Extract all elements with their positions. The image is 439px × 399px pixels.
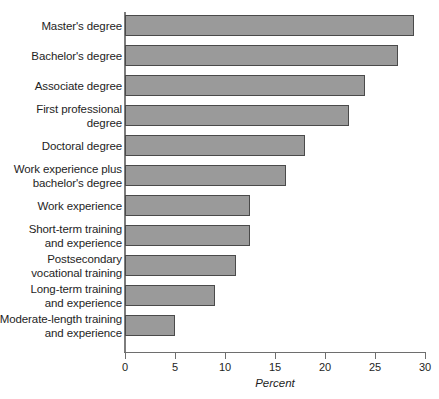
category-label-line: and experience <box>0 327 122 341</box>
category-label-line: Work experience <box>0 200 122 214</box>
category-label: First professionaldegree <box>0 103 122 130</box>
category-label: Postsecondaryvocational training <box>0 253 122 280</box>
bar <box>125 45 398 66</box>
x-tick <box>325 353 326 359</box>
category-label: Work experience <box>0 200 122 214</box>
bar <box>125 195 250 216</box>
bar <box>125 165 286 186</box>
x-tick <box>425 353 426 359</box>
x-axis-title: Percent <box>125 377 425 389</box>
category-label-line: Short-term training <box>0 223 122 237</box>
bar-row: Postsecondaryvocational training <box>0 252 439 282</box>
x-tick <box>275 353 276 359</box>
category-label-line: Long-term training <box>0 283 122 297</box>
category-label: Moderate-length trainingand experience <box>0 313 122 340</box>
bar-row: Work experience plusbachelor's degree <box>0 162 439 192</box>
x-tick-label: 30 <box>405 361 439 373</box>
bar <box>125 225 250 246</box>
x-tick-label: 25 <box>355 361 395 373</box>
x-tick <box>375 353 376 359</box>
category-label: Work experience plusbachelor's degree <box>0 163 122 190</box>
bar-row: Bachelor's degree <box>0 42 439 72</box>
bar <box>125 255 236 276</box>
bar-row: Short-term trainingand experience <box>0 222 439 252</box>
plot-area: Master's degreeBachelor's degreeAssociat… <box>0 0 439 399</box>
category-label-line: First professional <box>0 103 122 117</box>
x-tick-label: 15 <box>255 361 295 373</box>
category-label-line: Associate degree <box>0 80 122 94</box>
bar-row: Master's degree <box>0 12 439 42</box>
category-label: Doctoral degree <box>0 140 122 154</box>
category-label: Master's degree <box>0 20 122 34</box>
bar <box>125 15 414 36</box>
x-tick <box>125 353 126 359</box>
category-label: Associate degree <box>0 80 122 94</box>
x-tick-label: 0 <box>105 361 145 373</box>
category-label-line: Postsecondary <box>0 253 122 267</box>
category-label-line: vocational training <box>0 267 122 281</box>
bar <box>125 105 349 126</box>
bar-row: Moderate-length trainingand experience <box>0 312 439 342</box>
category-label-line: Moderate-length training <box>0 313 122 327</box>
bar-row: Associate degree <box>0 72 439 102</box>
category-label-line: Doctoral degree <box>0 140 122 154</box>
category-label-line: and experience <box>0 297 122 311</box>
category-label-line: bachelor's degree <box>0 177 122 191</box>
bar-chart: Master's degreeBachelor's degreeAssociat… <box>0 0 439 399</box>
x-tick <box>175 353 176 359</box>
category-label-line: Bachelor's degree <box>0 50 122 64</box>
bar <box>125 315 175 336</box>
bar-row: Work experience <box>0 192 439 222</box>
x-tick-label: 20 <box>305 361 345 373</box>
category-label-line: and experience <box>0 237 122 251</box>
bar <box>125 285 215 306</box>
category-label-line: Work experience plus <box>0 163 122 177</box>
category-label-line: degree <box>0 117 122 131</box>
category-label: Bachelor's degree <box>0 50 122 64</box>
category-label: Long-term trainingand experience <box>0 283 122 310</box>
x-tick <box>225 353 226 359</box>
x-tick-label: 10 <box>205 361 245 373</box>
bar <box>125 135 305 156</box>
x-tick-label: 5 <box>155 361 195 373</box>
bar-row: Doctoral degree <box>0 132 439 162</box>
category-label-line: Master's degree <box>0 20 122 34</box>
bar-row: First professionaldegree <box>0 102 439 132</box>
bar <box>125 75 365 96</box>
category-label: Short-term trainingand experience <box>0 223 122 250</box>
bar-row: Long-term trainingand experience <box>0 282 439 312</box>
